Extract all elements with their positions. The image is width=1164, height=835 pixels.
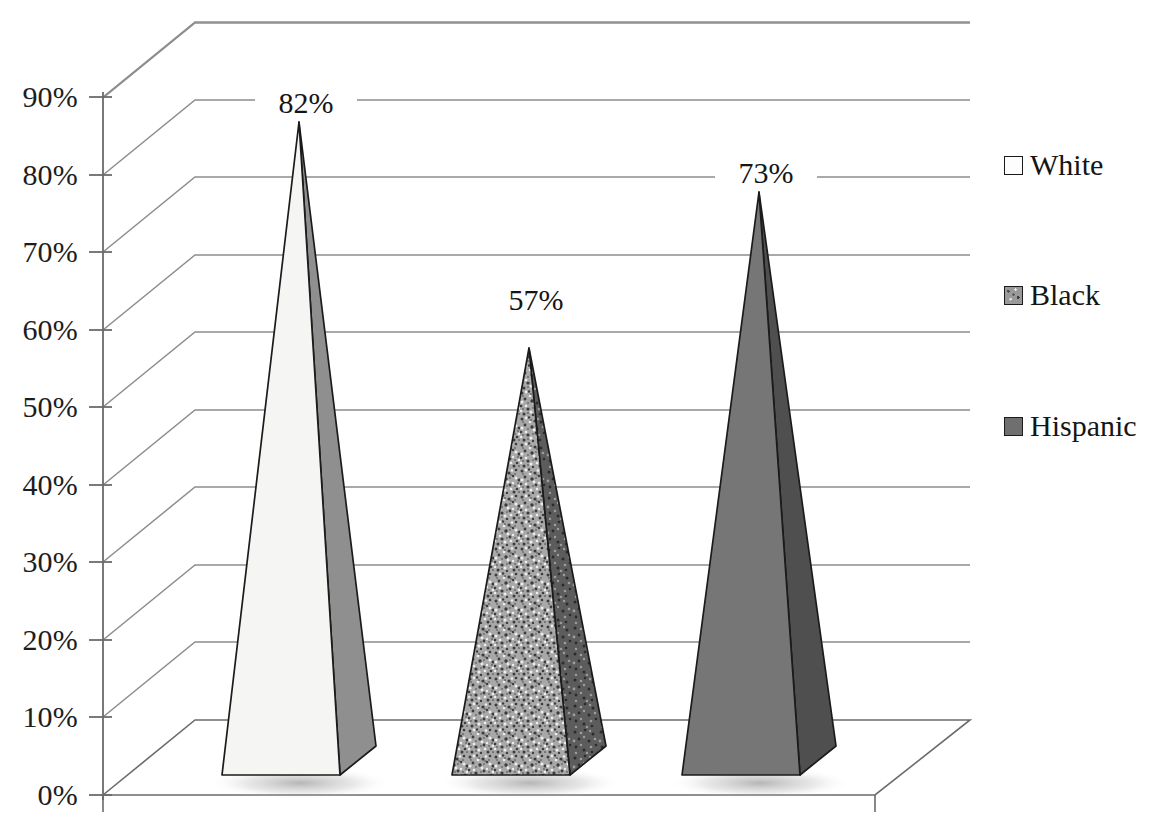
y-axis-tick-40: 40% — [0, 470, 78, 500]
pyramid-white[interactable] — [208, 122, 392, 799]
y-axis-tick-60: 60% — [0, 315, 78, 345]
legend-label-hispanic: Hispanic — [1030, 411, 1137, 441]
y-axis-tick-90: 90% — [0, 82, 78, 112]
legend-label-black: Black — [1030, 280, 1100, 310]
legend-label-white: White — [1030, 150, 1103, 180]
y-axis-tick-30: 30% — [0, 547, 78, 577]
y-axis-tick-50: 50% — [0, 392, 78, 422]
data-label-black: 57% — [485, 285, 587, 315]
legend-swatch-white-icon — [1004, 156, 1023, 175]
legend-item-black[interactable]: Black — [1004, 280, 1100, 310]
y-axis-tick-70: 70% — [0, 237, 78, 267]
y-axis-tick-10: 10% — [0, 702, 78, 732]
legend-swatch-hispanic-icon — [1004, 417, 1023, 436]
chart-canvas — [0, 0, 1164, 835]
legend-item-hispanic[interactable]: Hispanic — [1004, 411, 1137, 441]
value-axis — [89, 92, 112, 800]
data-label-white: 82% — [255, 88, 357, 118]
y-axis-tick-0: 0% — [0, 780, 78, 810]
chart-container: 90% 80% 70% 60% 50% 40% 30% 20% 10% 0% 8… — [0, 0, 1164, 835]
pyramid-hispanic[interactable] — [668, 192, 852, 799]
legend-item-white[interactable]: White — [1004, 150, 1103, 180]
y-axis-tick-20: 20% — [0, 625, 78, 655]
pyramid-black[interactable] — [438, 348, 622, 799]
data-label-hispanic: 73% — [715, 158, 817, 188]
legend-swatch-black-icon — [1004, 286, 1023, 305]
y-axis-tick-80: 80% — [0, 160, 78, 190]
